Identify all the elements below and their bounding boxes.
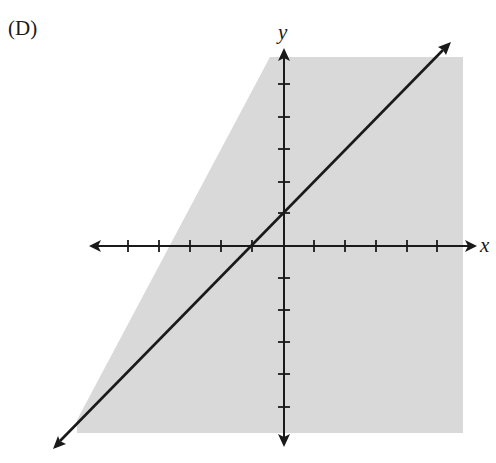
x-axis-label: x <box>479 233 490 257</box>
y-axis-label: y <box>276 20 288 44</box>
inequality-graph: x y <box>0 0 496 463</box>
